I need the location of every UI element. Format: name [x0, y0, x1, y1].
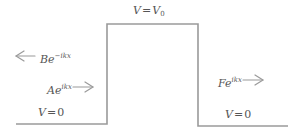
equals-sign: = — [142, 4, 151, 17]
transmitted-wave-label: Feikx — [218, 74, 242, 90]
wave-coefficient: F — [218, 77, 225, 90]
wave-exponent: ikx — [232, 76, 242, 84]
incident-wave-label: Aeikx — [47, 81, 72, 97]
wave-coefficient: B — [40, 53, 48, 66]
potential-value: V — [152, 4, 160, 17]
equals-sign: = — [234, 108, 243, 121]
wave-exponent: ikx — [61, 83, 71, 91]
barrier-potential-label: V=V0 — [133, 5, 165, 20]
equals-sign: = — [47, 106, 56, 119]
right-potential-label: V=0 — [225, 109, 251, 121]
reflected-arrow-icon — [16, 51, 35, 61]
reflected-wave-label: Be−ikx — [40, 50, 71, 66]
potential-subscript: 0 — [160, 10, 164, 18]
potential-value: 0 — [244, 108, 251, 121]
potential-var: V — [225, 108, 233, 121]
potential-barrier-diagram: V=V0 Be−ikx Aeikx Feikx V=0 V=0 — [0, 0, 301, 133]
transmitted-arrow-icon — [243, 75, 263, 85]
potential-var: V — [133, 4, 141, 17]
potential-var: V — [38, 106, 46, 119]
incident-arrow-icon — [73, 82, 93, 92]
wave-exponent: −ikx — [55, 52, 71, 60]
wave-coefficient: A — [47, 84, 55, 97]
potential-value: 0 — [57, 106, 64, 119]
left-potential-label: V=0 — [38, 107, 64, 119]
